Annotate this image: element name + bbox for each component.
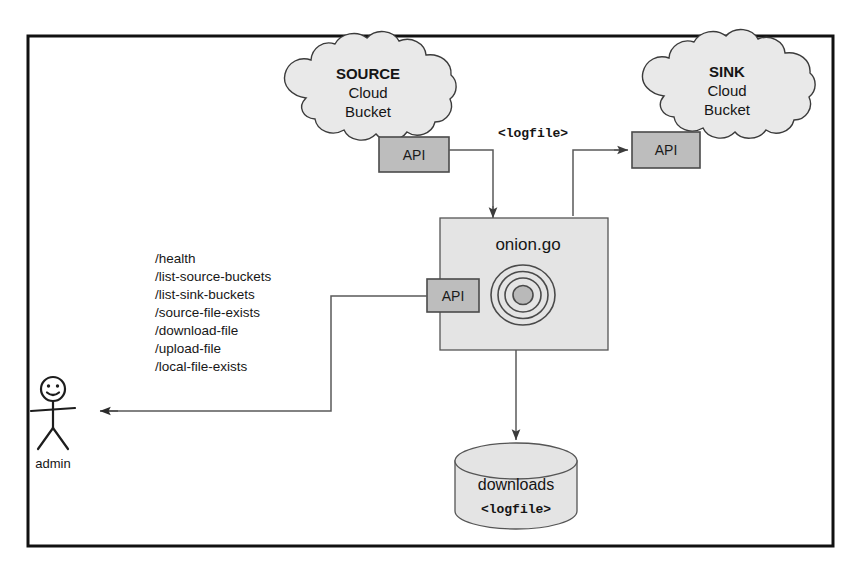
endpoint-item[interactable]: /source-file-exists [155, 305, 260, 320]
datastore-downloads-group: downloads <logfile> [455, 443, 577, 529]
stick-figure-leg-right-icon [53, 428, 68, 449]
transfer-payload-label: <logfile> [498, 126, 568, 141]
actor-admin-group: admin [31, 377, 75, 471]
datastore-content-label: <logfile> [481, 502, 551, 517]
connector-onion-to-sink [573, 150, 628, 216]
connector-source-to-onion [449, 150, 493, 218]
sink-cloud-line2: Cloud [707, 82, 746, 99]
process-onion-go-group: onion.go API [427, 218, 608, 350]
sink-cloud-title: SINK [709, 63, 745, 80]
source-cloud-line3: Bucket [345, 103, 392, 120]
sink-api-label: API [655, 142, 678, 158]
connector-api-to-admin [100, 296, 427, 411]
onion-api-label: API [442, 288, 465, 304]
endpoint-list: /health /list-source-buckets /list-sink-… [155, 251, 272, 374]
endpoint-item[interactable]: /upload-file [155, 341, 221, 356]
endpoint-item[interactable]: /list-source-buckets [155, 269, 272, 284]
sink-cloud-group: SINK Cloud Bucket API [632, 30, 815, 168]
endpoint-item[interactable]: /local-file-exists [155, 359, 248, 374]
architecture-diagram: SOURCE Cloud Bucket API SINK Cloud Bucke… [0, 0, 859, 579]
diagram-canvas: SOURCE Cloud Bucket API SINK Cloud Bucke… [0, 0, 859, 579]
endpoint-item[interactable]: /download-file [155, 323, 238, 338]
actor-admin-label: admin [35, 456, 70, 471]
datastore-top-ellipse [455, 443, 577, 479]
endpoint-item[interactable]: /list-sink-buckets [155, 287, 255, 302]
stick-figure-eye-left-icon [47, 384, 50, 387]
stick-figure-leg-left-icon [38, 428, 53, 449]
endpoint-item[interactable]: /health [155, 251, 196, 266]
source-api-label: API [403, 147, 426, 163]
stick-figure-arms-icon [31, 408, 75, 411]
process-name-label: onion.go [495, 235, 560, 254]
datastore-name-label: downloads [478, 476, 555, 493]
stick-figure-eye-right-icon [56, 384, 59, 387]
source-cloud-group: SOURCE Cloud Bucket API [284, 32, 456, 172]
sink-cloud-line3: Bucket [704, 101, 751, 118]
source-cloud-title: SOURCE [336, 65, 400, 82]
source-cloud-line2: Cloud [348, 84, 387, 101]
stick-figure-head-icon [41, 377, 65, 401]
